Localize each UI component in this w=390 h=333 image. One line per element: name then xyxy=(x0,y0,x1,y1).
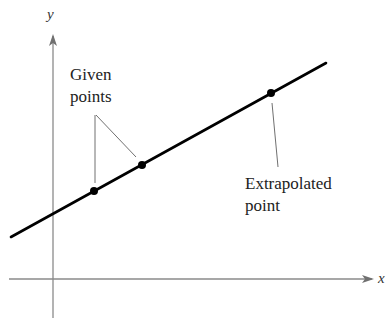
extrapolation-diagram: y x Given points Extrapolated point xyxy=(0,0,390,333)
extrapolated-point xyxy=(267,89,275,97)
given-point-1 xyxy=(90,187,98,195)
extrapolated-point-label-line2: point xyxy=(245,196,280,215)
x-axis-label: x xyxy=(377,270,385,286)
given-point-2 xyxy=(138,161,146,169)
given-points-label-line1: Given xyxy=(70,65,112,84)
y-axis-label: y xyxy=(45,6,54,22)
extrapolated-leader xyxy=(272,103,278,167)
extrapolated-point-label-line1: Extrapolated xyxy=(245,174,332,193)
given-leader-2 xyxy=(96,115,136,157)
given-points-label-line2: points xyxy=(70,87,112,106)
